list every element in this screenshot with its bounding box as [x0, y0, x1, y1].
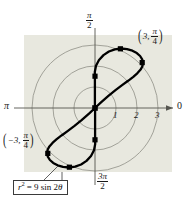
polar-figure: π 0 π 2 3π 2 1 2 3 ( 3, π 4 ) ( −3, π — [0, 0, 193, 206]
radial-tick-label-2: 2 — [134, 110, 139, 120]
annotation-negative-angle-denominator: 4 — [23, 141, 30, 150]
marker-point-3-pi-over-4 — [140, 60, 145, 65]
equation-exponent: 2 — [22, 181, 25, 188]
marker-point-upper-inner — [118, 46, 123, 51]
marker-point-lower-outer — [92, 137, 97, 142]
annotation-point-negative: ( −3, π 4 ) — [2, 131, 35, 150]
axis-label-pi: π — [4, 101, 9, 111]
marker-point-neg3-pi-over-4 — [45, 151, 50, 156]
axis-label-three-pi-over-two: 3π 2 — [97, 172, 108, 191]
annotation-close-paren: ) — [159, 29, 163, 43]
axis-label-pi-over-two-denominator: 2 — [86, 21, 93, 30]
axis-label-three-pi-over-two-denominator: 2 — [97, 182, 108, 191]
annotation-negative-open-paren: ( — [3, 133, 7, 147]
marker-point-lower-inner — [67, 165, 72, 170]
annotation-point-positive: ( 3, π 4 ) — [137, 27, 164, 46]
equation-relation: = 9 sin 2 — [27, 183, 58, 192]
annotation-open-paren: ( — [138, 29, 142, 43]
annotation-radius-value: 3, — [143, 32, 150, 41]
radial-tick-label-3: 3 — [155, 110, 160, 120]
annotation-angle-denominator: 4 — [151, 37, 158, 46]
marker-point-origin — [92, 105, 98, 111]
axis-label-pi-over-two: π 2 — [86, 11, 93, 30]
axis-label-zero: 0 — [177, 101, 182, 111]
annotation-negative-radius-value: −3, — [8, 136, 21, 145]
equation-theta-symbol: θ — [58, 183, 62, 192]
marker-point-upper-outer — [92, 74, 97, 79]
equation-callout-box: r2 = 9 sin 2 θ — [13, 180, 68, 195]
annotation-negative-close-paren: ) — [30, 133, 34, 147]
radial-tick-label-1: 1 — [113, 110, 118, 120]
